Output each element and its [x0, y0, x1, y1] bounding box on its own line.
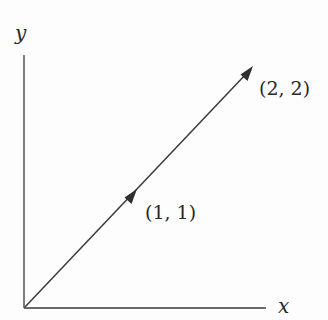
vector-diagram: y x (1, 1) (2, 2) [0, 0, 328, 320]
x-axis-label: x [278, 294, 289, 318]
point-label-1-1: (1, 1) [145, 201, 196, 223]
point-label-2-2: (2, 2) [259, 77, 310, 99]
y-axis-label: y [14, 21, 27, 45]
diagram-svg: y x (1, 1) (2, 2) [0, 0, 328, 320]
midpoint-arrowhead-icon [125, 189, 138, 204]
